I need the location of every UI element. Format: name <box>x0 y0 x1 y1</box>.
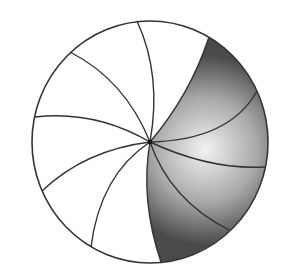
spoke-1 <box>137 21 154 142</box>
spoke-2 <box>70 52 150 142</box>
spoke-3 <box>35 116 150 142</box>
spoke-5 <box>91 142 150 247</box>
spoke-4 <box>42 142 150 191</box>
unshaded-spokes <box>35 21 154 247</box>
center-point <box>148 140 152 144</box>
shaded-region <box>147 37 268 262</box>
pinwheel-circle-diagram <box>0 0 283 278</box>
